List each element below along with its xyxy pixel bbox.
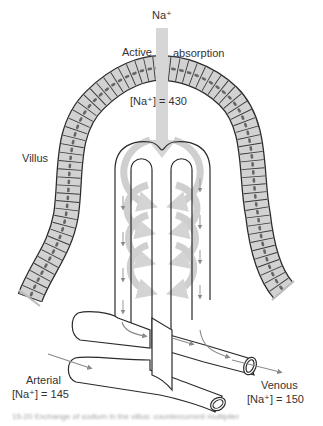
figure-caption: 15-20 Exchange of sodium in the villus: … bbox=[12, 412, 239, 421]
active-label: Active bbox=[122, 46, 152, 59]
villus-label: Villus bbox=[22, 152, 48, 165]
exchange-arrows bbox=[124, 140, 201, 292]
tip-concentration-label: [Na⁺] = 430 bbox=[130, 95, 187, 108]
absorption-label: absorption bbox=[173, 47, 224, 60]
ion-label: Na⁺ bbox=[152, 9, 172, 22]
arterial-concentration-label: [Na⁺] = 145 bbox=[12, 388, 69, 401]
villus-countercurrent-diagram: Na⁺ Active absorption [Na⁺] = 430 Villus… bbox=[0, 0, 323, 426]
base-vessels bbox=[68, 312, 258, 414]
arterial-label: Arterial bbox=[26, 374, 61, 387]
absorption-arrow bbox=[148, 28, 176, 158]
diagram-artwork bbox=[0, 0, 323, 426]
venous-concentration-label: [Na⁺] = 150 bbox=[247, 393, 304, 406]
venous-label: Venous bbox=[261, 379, 298, 392]
